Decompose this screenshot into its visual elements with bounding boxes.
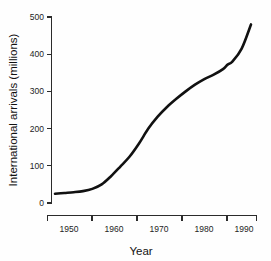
y-axis: 500 400 300 200 100 0	[30, 12, 52, 208]
y-tick-label-400: 400	[30, 49, 44, 59]
y-tick-label-500: 500	[30, 12, 44, 22]
y-tick-label-100: 100	[30, 161, 44, 171]
x-tick-label-1950: 1950	[60, 224, 79, 234]
x-tick-label-1980: 1980	[195, 224, 214, 234]
x-tick-label-1960: 1960	[105, 224, 124, 234]
chart-figure: 500 400 300 200 100 0 1950 1960 1970 198…	[0, 0, 271, 261]
y-axis-title: International arrivals (millions)	[7, 33, 19, 186]
y-tick-label-0: 0	[39, 198, 44, 208]
chart-canvas: 500 400 300 200 100 0 1950 1960 1970 198…	[0, 0, 271, 261]
y-tick-label-200: 200	[30, 124, 44, 134]
data-line-international-arrivals	[55, 24, 251, 193]
y-tick-label-300: 300	[30, 86, 44, 96]
x-tick-label-1990: 1990	[235, 224, 254, 234]
x-axis: 1950 1960 1970 1980 1990	[47, 216, 257, 235]
x-tick-label-1970: 1970	[150, 224, 169, 234]
x-axis-title: Year	[129, 245, 152, 257]
